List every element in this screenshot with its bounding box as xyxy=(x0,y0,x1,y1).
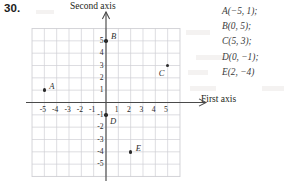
x-tick-label: 4 xyxy=(152,106,156,114)
y-tick-label: 4 xyxy=(94,49,104,57)
point-label-d: D xyxy=(110,117,116,126)
page-bleed-artifact xyxy=(262,86,284,91)
page-bleed-artifact xyxy=(188,70,208,75)
x-tick-label: 2 xyxy=(127,106,131,114)
y-tick-label: 3 xyxy=(94,62,104,70)
y-tick-label: 2 xyxy=(94,74,104,82)
x-tick-label: 5 xyxy=(164,106,168,114)
answer-line: E(2, −4) xyxy=(222,65,259,80)
y-tick-label: 5 xyxy=(94,37,104,45)
axis-lines xyxy=(32,28,180,177)
answer-line: B(0, 5); xyxy=(222,19,259,34)
point-label-c: C xyxy=(159,69,165,78)
x-tick-label: -4 xyxy=(52,106,58,114)
answer-line: A(−5, 1); xyxy=(222,4,259,19)
x-tick-label: 1 xyxy=(115,106,119,114)
x-tick-label: -5 xyxy=(40,106,46,114)
y-tick-label: -5 xyxy=(94,160,104,168)
point-label-e: E xyxy=(136,144,141,153)
y-tick-label: -4 xyxy=(94,148,104,156)
second-axis-title: Second axis xyxy=(70,1,116,11)
problem-number: 30. xyxy=(4,2,20,14)
answer-line: C(5, 3); xyxy=(222,34,259,49)
coordinate-plane: ABCDE xyxy=(32,28,180,177)
y-tick-label: -3 xyxy=(94,136,104,144)
point-label-b: B xyxy=(111,32,116,41)
page-bleed-artifact xyxy=(186,30,210,35)
x-tick-label: 3 xyxy=(139,106,143,114)
plotted-point-b xyxy=(104,39,107,42)
y-tick-label: -1 xyxy=(94,111,104,119)
plotted-point-d xyxy=(104,113,107,116)
page-bleed-artifact xyxy=(190,86,216,91)
answer-line: D(0, −1); xyxy=(222,50,259,65)
y-tick-label: -2 xyxy=(94,123,104,131)
page-bleed-artifact xyxy=(36,10,54,14)
answer-point-list: A(−5, 1);B(0, 5);C(5, 3);D(0, −1);E(2, −… xyxy=(222,4,259,80)
point-label-a: A xyxy=(49,82,54,91)
x-tick-label: -3 xyxy=(64,106,70,114)
plotted-point-e xyxy=(129,150,132,153)
x-tick-label: -2 xyxy=(77,106,83,114)
y-tick-label: 1 xyxy=(94,86,104,94)
plotted-point-a xyxy=(43,88,46,91)
